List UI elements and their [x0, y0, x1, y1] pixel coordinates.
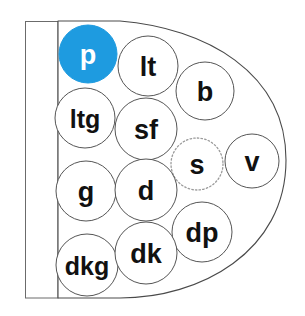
- node-label-dk: dk: [130, 239, 162, 269]
- left-rectangle[interactable]: [26, 22, 59, 299]
- node-label-ltg: ltg: [70, 105, 101, 133]
- node-label-sf: sf: [134, 115, 159, 145]
- node-v[interactable]: v: [225, 134, 279, 188]
- node-label-d: d: [138, 176, 155, 206]
- diagram-canvas: pltbltgsfsvgddpdkgdk: [0, 0, 305, 316]
- node-g[interactable]: g: [56, 161, 116, 221]
- node-p[interactable]: p: [59, 25, 117, 83]
- node-dkg[interactable]: dkg: [56, 234, 118, 296]
- node-label-p: p: [80, 40, 97, 70]
- node-s[interactable]: s: [171, 138, 223, 190]
- node-b[interactable]: b: [176, 62, 234, 120]
- node-dk[interactable]: dk: [115, 222, 177, 284]
- node-label-b: b: [197, 77, 214, 107]
- node-sf[interactable]: sf: [115, 98, 177, 160]
- node-dp[interactable]: dp: [172, 202, 232, 262]
- node-label-lt: lt: [140, 52, 157, 82]
- node-label-g: g: [78, 177, 95, 207]
- node-lt[interactable]: lt: [118, 36, 178, 96]
- node-label-v: v: [244, 147, 259, 177]
- semicircle-cluster-diagram: pltbltgsfsvgddpdkgdk: [0, 0, 305, 316]
- node-d[interactable]: d: [115, 159, 177, 221]
- node-label-dkg: dkg: [65, 252, 109, 280]
- node-ltg[interactable]: ltg: [55, 88, 115, 148]
- node-label-dp: dp: [186, 218, 219, 248]
- node-label-s: s: [189, 150, 204, 180]
